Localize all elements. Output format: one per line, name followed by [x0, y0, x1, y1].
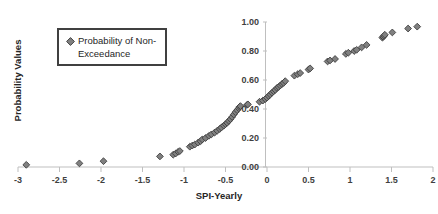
y-axis-tick-label: 1.00 — [227, 17, 259, 27]
x-axis-tick-label: -1 — [180, 175, 188, 185]
x-axis-tick-label: 1 — [347, 175, 352, 185]
y-axis-tick-label: 0.00 — [227, 162, 259, 172]
x-axis-tick-label: 0 — [264, 175, 269, 185]
data-point — [405, 25, 412, 32]
data-point — [157, 153, 164, 160]
legend-label: Probability of Non-Exceedance — [78, 34, 165, 60]
y-axis-tick-label: 0.60 — [227, 75, 259, 85]
chart-container: -3-2.5-2-1.5-1-0.500.511.52 0.000.200.40… — [0, 0, 438, 214]
data-point — [414, 23, 421, 30]
y-axis-title: Probability Values — [12, 26, 23, 136]
legend: Probability of Non-Exceedance — [57, 28, 167, 66]
x-axis-tick-label: 2 — [430, 175, 435, 185]
legend-entry: Probability of Non-Exceedance — [66, 34, 165, 60]
data-point — [100, 158, 107, 165]
y-axis-tick-label: 0.20 — [227, 133, 259, 143]
y-axis-tick-label: 0.80 — [227, 46, 259, 56]
x-axis-tick-label: -1.5 — [135, 175, 151, 185]
x-axis-tick-label: -2 — [97, 175, 105, 185]
x-axis-tick-label: -2.5 — [52, 175, 68, 185]
x-axis-tick-label: 1.5 — [385, 175, 398, 185]
x-axis-tick-label: -0.5 — [218, 175, 234, 185]
data-point — [389, 29, 396, 36]
data-point — [76, 160, 83, 167]
x-axis-title: SPI-Yearly — [0, 190, 438, 201]
x-axis-tick-marks — [18, 167, 433, 172]
diamond-marker-icon — [66, 37, 75, 46]
x-axis-tick-label: -3 — [14, 175, 22, 185]
y-axis-tick-label: 0.40 — [227, 104, 259, 114]
x-axis-tick-label: 0.5 — [302, 175, 315, 185]
